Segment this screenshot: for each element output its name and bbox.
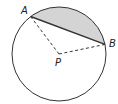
circle-diagram: A B P <box>0 0 118 104</box>
radius-pb <box>59 44 105 54</box>
shaded-segment <box>31 7 105 44</box>
label-b: B <box>109 38 116 49</box>
label-p: P <box>55 57 62 68</box>
label-a: A <box>20 5 28 16</box>
